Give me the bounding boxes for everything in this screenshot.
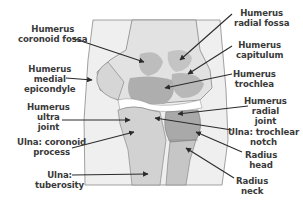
label-ulna-coronoid-process: Ulna: coronoid process [17,137,86,157]
label-ulna-trochlear-notch: Ulna: trochlear notch [228,127,299,147]
label-humerus-capitulum: Humerus capitulum [236,40,283,60]
label-humerus-trochlea: Humerus trochlea [233,69,276,89]
label-radius-neck: Radius neck [236,176,268,196]
label-humerus-coronoid-fossa: Humerus coronoid fossa [18,24,88,44]
label-humerus-ultra-joint: Humerus ultra joint [27,102,70,132]
radius-head-shape [165,110,201,142]
label-radius-head: Radius head [245,150,277,170]
label-humerus-medial-epicondyle: Humerus medial epicondyle [24,64,76,94]
label-ulna-tuberosity: Ulna: tuberosity [35,170,84,190]
label-humerus-radial-joint: Humerus radial joint [244,96,287,126]
label-humerus-radial-fossa: Humerus radial fossa [234,8,289,28]
